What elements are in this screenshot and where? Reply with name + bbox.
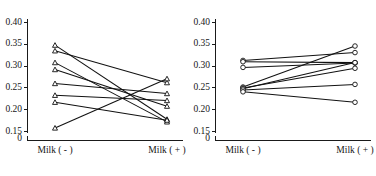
y-tick-label: 0.25	[5, 82, 22, 92]
left-panel-markers	[53, 43, 170, 130]
series-line	[243, 62, 355, 63]
left-panel: 0.150.200.250.300.350.400 Milk ( - )Milk…	[0, 0, 188, 176]
data-point-marker	[241, 65, 246, 70]
right-panel-series-lines	[243, 46, 355, 102]
data-point-marker	[353, 50, 358, 55]
data-point-marker	[53, 100, 58, 105]
data-point-marker	[53, 81, 58, 86]
y-tick-label: 0.40	[193, 17, 210, 27]
data-point-marker	[165, 91, 170, 96]
data-point-marker	[353, 82, 358, 87]
data-point-marker	[241, 90, 246, 95]
right-panel-plot: 0.150.200.250.300.350.400 Milk ( - )Milk…	[188, 0, 376, 176]
data-point-marker	[53, 67, 58, 72]
series-line	[243, 92, 355, 102]
data-point-marker	[165, 104, 170, 109]
y-axis-break-label: 0	[205, 133, 210, 143]
series-line	[55, 102, 167, 120]
y-axis-break-label: 0	[17, 133, 22, 143]
data-point-marker	[53, 93, 58, 98]
right-panel: 0.150.200.250.300.350.400 Milk ( - )Milk…	[188, 0, 376, 176]
y-tick-label: 0.30	[5, 60, 22, 70]
paired-line-chart-figure: 0.150.200.250.300.350.400 Milk ( - )Milk…	[0, 0, 376, 176]
y-tick-label: 0.40	[5, 17, 22, 27]
data-point-marker	[241, 59, 246, 64]
left-panel-x-tick-labels: Milk ( - )Milk ( + )	[37, 145, 185, 156]
left-panel-plot: 0.150.200.250.300.350.400 Milk ( - )Milk…	[0, 0, 188, 176]
x-tick-label: Milk ( + )	[336, 145, 373, 156]
x-tick-label: Milk ( - )	[37, 145, 72, 156]
y-tick-label: 0.35	[5, 38, 22, 48]
left-panel-y-tick-labels: 0.150.200.250.300.350.400	[5, 17, 22, 144]
data-point-marker	[353, 44, 358, 49]
data-point-marker	[165, 98, 170, 103]
series-line	[243, 53, 355, 61]
series-line	[55, 45, 167, 119]
left-panel-axes	[24, 19, 183, 141]
data-point-marker	[165, 76, 170, 81]
right-panel-markers	[241, 44, 358, 105]
x-tick-label: Milk ( + )	[148, 145, 185, 156]
series-line	[55, 51, 167, 83]
data-point-marker	[353, 66, 358, 71]
data-point-marker	[353, 60, 358, 65]
right-panel-x-tick-labels: Milk ( - )Milk ( + )	[225, 145, 373, 156]
y-tick-label: 0.20	[5, 104, 22, 114]
y-tick-label: 0.35	[193, 38, 210, 48]
data-point-marker	[353, 100, 358, 105]
y-tick-label: 0.30	[193, 60, 210, 70]
series-line	[55, 95, 167, 100]
series-line	[55, 79, 167, 128]
y-tick-label: 0.20	[193, 104, 210, 114]
series-line	[55, 70, 167, 107]
data-point-marker	[53, 60, 58, 65]
right-panel-y-tick-labels: 0.150.200.250.300.350.400	[193, 17, 210, 144]
x-tick-label: Milk ( - )	[225, 145, 260, 156]
y-tick-label: 0.25	[193, 82, 210, 92]
data-point-marker	[53, 43, 58, 48]
data-point-marker	[53, 126, 58, 131]
left-panel-series-lines	[55, 45, 167, 128]
data-point-marker	[53, 48, 58, 53]
